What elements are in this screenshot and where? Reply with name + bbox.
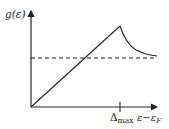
delta-max-label: Δmax xyxy=(110,111,134,125)
decay-curve xyxy=(120,26,157,56)
linear-rise-line xyxy=(31,26,120,107)
dos-diagram: g(ε) Δmax ε−εF xyxy=(0,0,169,129)
y-axis-label: g(ε) xyxy=(5,8,26,20)
x-axis-label: ε−εF xyxy=(137,112,162,125)
